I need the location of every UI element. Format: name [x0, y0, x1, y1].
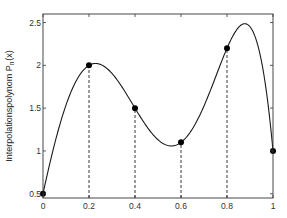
x-tick-label: 0.4 [129, 201, 141, 211]
y-tick-label: 2 [36, 60, 41, 70]
node-markers [40, 45, 276, 196]
x-tick-label: 0.2 [83, 201, 95, 211]
x-axis-ticks: 00.20.40.60.81 [41, 14, 276, 211]
y-axis-label-main: Interpolationspolynom P [4, 65, 14, 162]
y-tick-label: 1 [36, 146, 41, 156]
y-axis-ticks: 0.511.522.5 [29, 18, 273, 199]
node-marker [132, 105, 138, 111]
polynomial-curve [43, 24, 273, 194]
interpolation-chart: 00.20.40.60.81 0.511.522.5 Interpolation… [0, 0, 287, 218]
axes-frame [43, 14, 273, 198]
y-tick-label: 1.5 [29, 103, 41, 113]
node-marker [178, 139, 184, 145]
y-axis-label: Interpolationspolynom Pn(x) [4, 50, 15, 162]
y-tick-label: 0.5 [29, 189, 41, 199]
node-marker [224, 45, 230, 51]
x-tick-label: 0 [41, 201, 46, 211]
y-axis-label-tail: (x) [4, 50, 14, 61]
y-axis-label-subscript: n [8, 61, 15, 65]
x-tick-label: 0.6 [175, 201, 187, 211]
x-tick-label: 1 [271, 201, 276, 211]
node-marker [86, 62, 92, 68]
y-tick-label: 2.5 [29, 18, 41, 28]
x-tick-label: 0.8 [221, 201, 233, 211]
